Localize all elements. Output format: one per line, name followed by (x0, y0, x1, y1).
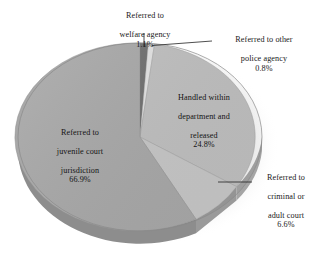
label-line: Handled within (178, 93, 230, 102)
pie-chart-figure: Referred to welfare agency 1.1% Referred… (0, 0, 320, 258)
label-line: Referred to (267, 173, 305, 182)
label-line: department and (178, 112, 230, 121)
label-line: criminal or (267, 192, 304, 201)
slice-label-other-police-agency: Referred to other police agency 0.8% (214, 26, 314, 82)
label-line: police agency (241, 54, 287, 63)
label-line: released (190, 131, 217, 140)
label-line: Referred to (61, 128, 99, 137)
slice-label-criminal-adult-court: Referred to criminal or adult court 6.6% (254, 164, 318, 239)
label-line: adult court (268, 211, 304, 220)
label-line: welfare agency (120, 30, 171, 39)
label-percent: 24.8% (155, 140, 253, 149)
label-percent: 66.9% (28, 175, 132, 184)
label-percent: 1.1% (101, 40, 189, 49)
label-percent: 6.6% (254, 220, 318, 229)
slice-label-handled-within-department: Handled within department and released 2… (155, 84, 253, 159)
label-percent: 0.8% (214, 64, 314, 73)
slice-label-juvenile-court: Referred to juvenile court jurisdiction … (28, 119, 132, 194)
label-line: Referred to other (235, 35, 292, 44)
label-line: Referred to (126, 11, 164, 20)
slice-label-welfare-agency: Referred to welfare agency 1.1% (101, 2, 189, 58)
label-line: juvenile court (57, 147, 103, 156)
label-line: jurisdiction (61, 166, 99, 175)
